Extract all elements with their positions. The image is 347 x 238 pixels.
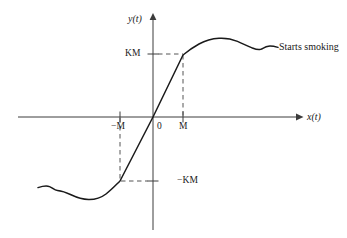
x-axis [18,114,304,121]
y-tick-label-negative-km: −KM [177,176,198,186]
transfer-function-figure: y(t) x(t) KM −KM −M M 0 Starts smoking [0,0,347,238]
transfer-curve [38,38,278,199]
x-tick-label-negative-m: −M [111,122,125,132]
figure-canvas [0,0,347,238]
y-tick-label-km: KM [125,49,141,59]
starts-smoking-annotation: Starts smoking [279,42,339,52]
y-axis-arrowhead [150,13,157,20]
curve-path [38,38,278,199]
origin-label: 0 [157,122,162,132]
x-axis-arrowhead [296,114,304,121]
y-axis-label: y(t) [128,14,142,24]
x-axis-label: x(t) [307,112,321,122]
x-tick-label-m: M [179,122,188,132]
